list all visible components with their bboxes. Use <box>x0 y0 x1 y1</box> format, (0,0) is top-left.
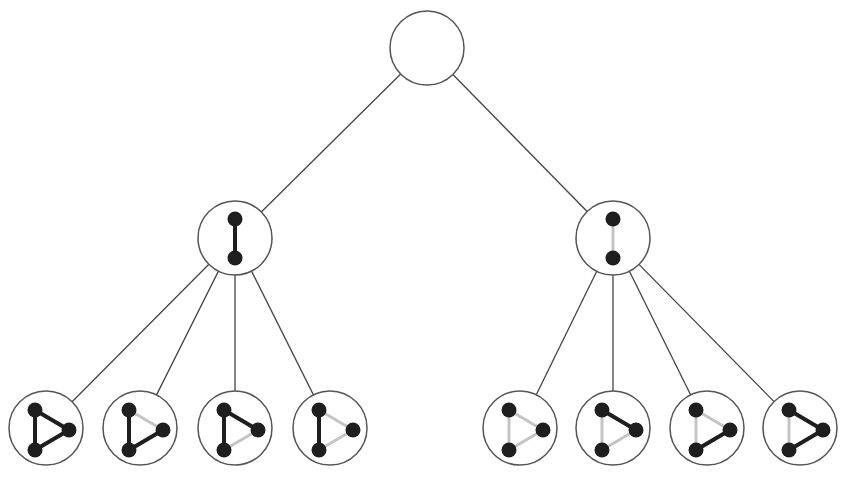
tree-edge-mid-left-leaf-4 <box>252 271 314 395</box>
graph-vertex-right <box>629 423 644 438</box>
tree-edge-mid-left-leaf-2 <box>157 271 219 395</box>
tree-edge-mid-right-leaf-8 <box>639 264 774 401</box>
graph-vertex-right <box>723 423 738 438</box>
graph-vertex-top <box>312 403 327 418</box>
graph-vertex-top <box>595 403 610 418</box>
graph-vertex-bottom <box>595 443 610 458</box>
graph-vertex-bottom <box>228 251 243 266</box>
graph-vertex-bottom <box>312 443 327 458</box>
graph-vertex-top <box>217 403 232 418</box>
graph-vertex-top <box>502 403 517 418</box>
tree-edge-mid-right-leaf-5 <box>536 271 596 395</box>
tree-edge-mid-right-leaf-7 <box>629 271 690 395</box>
graph-vertex-top <box>782 403 797 418</box>
graph-vertex-bottom <box>28 443 43 458</box>
tree-edges <box>72 74 774 402</box>
tree-edge-mid-left-leaf-1 <box>72 264 209 402</box>
graph-vertex-bottom <box>606 251 621 266</box>
tree-edge-root-mid-right <box>453 74 587 211</box>
graph-vertex-top <box>28 403 43 418</box>
graph-vertex-bottom <box>502 443 517 458</box>
graph-vertex-right <box>816 423 831 438</box>
leaf-5-node <box>483 391 557 465</box>
mid-right-node <box>576 201 650 275</box>
graph-vertex-right <box>251 423 266 438</box>
graph-vertex-bottom <box>217 443 232 458</box>
leaf-4-node <box>293 391 367 465</box>
graph-vertex-bottom <box>782 443 797 458</box>
graph-vertex-top <box>122 403 137 418</box>
graph-vertex-bottom <box>122 443 137 458</box>
graph-vertex-top <box>689 403 704 418</box>
graph-vertex-top <box>228 212 243 227</box>
leaf-7-node <box>670 391 744 465</box>
graph-vertex-right <box>62 423 77 438</box>
node-circle <box>390 11 464 85</box>
leaf-1-node <box>9 391 83 465</box>
mid-left-node <box>198 201 272 275</box>
tree-diagram <box>0 0 849 483</box>
tree-edge-root-mid-left <box>261 74 400 212</box>
root-node <box>390 11 464 85</box>
leaf-3-node <box>198 391 272 465</box>
graph-vertex-bottom <box>689 443 704 458</box>
leaf-8-node <box>763 391 837 465</box>
leaf-6-node <box>576 391 650 465</box>
graph-vertex-right <box>346 423 361 438</box>
tree-nodes <box>9 11 837 465</box>
graph-vertex-right <box>536 423 551 438</box>
leaf-2-node <box>103 391 177 465</box>
graph-vertex-top <box>606 212 621 227</box>
graph-vertex-right <box>156 423 171 438</box>
